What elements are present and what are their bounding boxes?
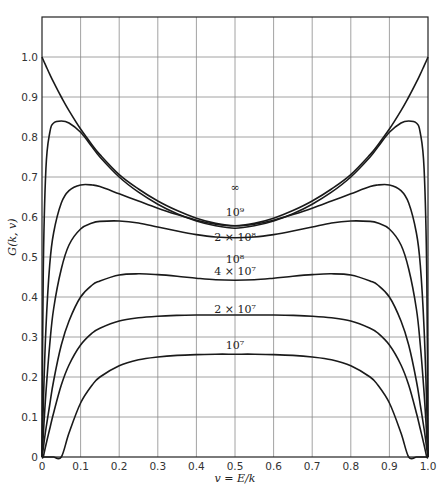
chart: 00.10.20.30.40.50.60.70.80.91.0 00.10.20… [0, 0, 448, 490]
curve-label: ∞ [230, 181, 239, 194]
x-tick-label: 0.7 [304, 460, 321, 472]
x-axis-label: v = E/k [215, 472, 256, 485]
y-tick-label: 0.9 [21, 91, 38, 103]
x-tick-label: 0.8 [342, 460, 359, 472]
y-tick-label: 0 [31, 451, 38, 463]
curve-label: 4 × 10⁷ [214, 265, 256, 278]
y-tick-label: 0.7 [21, 171, 38, 183]
x-tick-label: 1.0 [420, 460, 437, 472]
x-tick-label: 0.3 [149, 460, 166, 472]
y-tick-label: 0.4 [21, 291, 38, 303]
x-axis-ticks: 00.10.20.30.40.50.60.70.80.91.0 [39, 460, 437, 472]
curve-label: 2 × 10⁷ [214, 303, 256, 316]
curve-label: 10⁷ [226, 339, 245, 352]
y-tick-label: 1.0 [21, 51, 38, 63]
y-axis-label: G(k, v) [6, 218, 19, 255]
y-tick-label: 0.8 [21, 131, 38, 143]
curve-label: 10⁹ [226, 206, 245, 219]
x-tick-label: 0.1 [72, 460, 89, 472]
y-tick-label: 0.6 [21, 211, 38, 223]
y-tick-label: 0.3 [21, 331, 38, 343]
y-tick-label: 0.5 [21, 251, 38, 263]
curve-label: 2 × 10⁸ [214, 231, 256, 244]
x-tick-label: 0.6 [265, 460, 282, 472]
x-tick-label: 0.4 [188, 460, 205, 472]
x-tick-label: 0.9 [381, 460, 398, 472]
x-tick-label: 0.2 [111, 460, 128, 472]
y-tick-label: 0.1 [21, 411, 38, 423]
y-tick-label: 0.2 [21, 371, 38, 383]
y-axis-ticks: 00.10.20.30.40.50.60.70.80.91.0 [21, 51, 38, 463]
x-tick-label: 0.5 [227, 460, 244, 472]
x-tick-label: 0 [39, 460, 46, 472]
